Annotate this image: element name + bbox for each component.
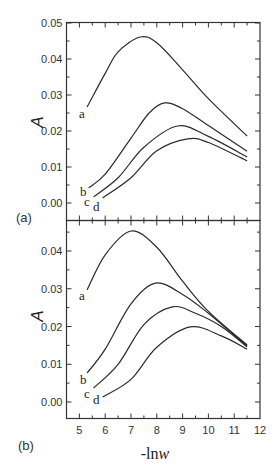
curve-label-c-bottom: c — [84, 386, 90, 401]
panel-b-x-ticks: 56789101112 — [76, 221, 266, 436]
curve-a — [87, 36, 247, 136]
curve-label-a-top: a — [79, 106, 85, 121]
x-tick-label: 10 — [202, 424, 214, 436]
x-tick-label: 12 — [254, 424, 266, 436]
panel-a-y-axis-title: A — [28, 116, 47, 128]
x-tick-label: 7 — [128, 424, 134, 436]
panel-b: 0.000.010.020.030.04 56789101112 A (b) a… — [18, 221, 266, 454]
y-tick-label: 0.01 — [41, 161, 62, 173]
curve-label-d-top: d — [93, 199, 100, 214]
y-tick-label: 0.03 — [41, 283, 62, 295]
curve-label-c-top: c — [84, 194, 90, 209]
curve-b — [89, 103, 247, 188]
panel-b-y-ticks: 0.000.010.020.030.04 — [41, 232, 260, 408]
curve-d — [103, 327, 248, 398]
panel-a-frame — [67, 23, 261, 221]
panel-a-curves — [87, 36, 247, 198]
panel-a-x-ticks — [79, 23, 247, 221]
x-tick-label: 6 — [102, 424, 108, 436]
curve-c — [94, 306, 248, 388]
curve-label-d-bottom: d — [93, 392, 100, 407]
panel-b-curves — [87, 231, 247, 397]
y-tick-label: 0.00 — [41, 197, 62, 209]
y-tick-label: 0.00 — [41, 396, 62, 408]
panel-a: 0.000.010.020.030.040.05 A (a) a b c d — [16, 17, 260, 225]
y-tick-label: 0.05 — [41, 17, 62, 29]
figure: 0.000.010.020.030.040.05 A (a) a b c d 0… — [0, 0, 277, 474]
y-tick-label: 0.04 — [41, 245, 62, 257]
panel-a-label: (a) — [16, 210, 32, 225]
x-tick-label: 5 — [76, 424, 82, 436]
curve-label-a-bottom: a — [79, 288, 85, 303]
x-axis-title: -lnw — [141, 445, 170, 462]
x-tick-label: 9 — [180, 424, 186, 436]
y-tick-label: 0.03 — [41, 89, 62, 101]
y-tick-label: 0.01 — [41, 358, 62, 370]
panel-b-y-axis-title: A — [28, 310, 47, 322]
panel-b-frame — [67, 221, 261, 419]
panel-b-label: (b) — [18, 438, 34, 453]
x-tick-label: 8 — [154, 424, 160, 436]
curve-label-b-bottom: b — [80, 372, 87, 387]
x-tick-label: 11 — [228, 424, 239, 436]
panel-a-y-ticks: 0.000.010.020.030.040.05 — [41, 17, 260, 209]
y-tick-label: 0.04 — [41, 53, 62, 65]
